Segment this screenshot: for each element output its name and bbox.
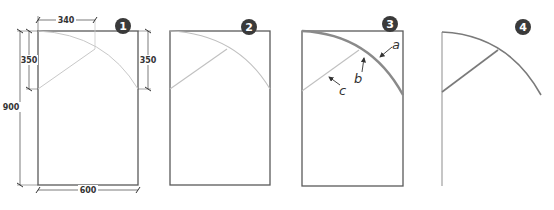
step-badge-4: 4 [515, 19, 531, 35]
panel-4-chord [442, 50, 498, 92]
svg-text:2: 2 [245, 21, 253, 34]
step-badge-2: 2 [241, 19, 257, 35]
dimension-left-900: 900 [2, 29, 38, 187]
dimension-top-340: 340 [36, 15, 97, 31]
svg-text:1: 1 [119, 20, 127, 33]
panel-1-guide-arc [38, 31, 138, 89]
annotation-a: a [380, 37, 400, 57]
panel-2-chord [170, 49, 227, 89]
svg-text:b: b [354, 71, 362, 86]
dim-label-900: 900 [3, 103, 20, 112]
dimension-left-350: 350 [20, 29, 38, 91]
dim-label-600: 600 [80, 186, 97, 195]
door-arc-diagram: 340 350 900 [0, 0, 554, 210]
panel-1-guide-chord [38, 49, 95, 89]
dim-label-340: 340 [58, 16, 75, 25]
dimension-bottom-600: 600 [36, 185, 140, 195]
panel-2: 2 [170, 19, 270, 185]
dim-label-left-350: 350 [21, 56, 38, 65]
panel-4-arc [442, 32, 541, 95]
annotation-c: c [329, 77, 346, 98]
panel-3-chord [302, 50, 359, 91]
svg-text:3: 3 [386, 18, 394, 31]
dim-label-right-350: 350 [140, 56, 157, 65]
panel-4: 4 [442, 19, 541, 186]
dimension-right-350: 350 [138, 29, 157, 91]
panel-1: 340 350 900 [2, 15, 157, 195]
svg-text:4: 4 [519, 21, 527, 34]
panel-3: a b c 3 [302, 16, 403, 186]
annotation-b: b [354, 58, 364, 86]
panel-2-arc [170, 31, 270, 89]
step-badge-3: 3 [382, 16, 398, 32]
panel-3-arc-bold [302, 31, 403, 95]
svg-text:a: a [392, 37, 400, 52]
step-badge-1: 1 [115, 18, 131, 34]
svg-text:c: c [339, 83, 346, 98]
